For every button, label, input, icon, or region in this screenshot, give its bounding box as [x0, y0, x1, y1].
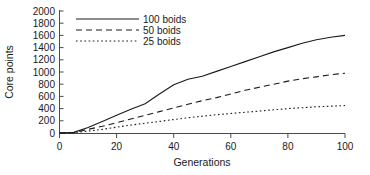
legend-label-25-boids: 25 boids — [143, 36, 181, 47]
x-tick-label: 20 — [111, 141, 123, 152]
x-tick-label: 80 — [282, 141, 294, 152]
legend-label-50-boids: 50 boids — [143, 25, 181, 36]
legend-label-100-boids: 100 boids — [143, 14, 186, 25]
y-tick-label: 1600 — [33, 30, 56, 41]
y-axis-title: Core points — [3, 45, 15, 99]
x-tick-label: 0 — [57, 141, 63, 152]
x-tick-label: 100 — [337, 141, 354, 152]
y-tick-label: 1800 — [33, 18, 56, 29]
x-tick-label: 40 — [168, 141, 180, 152]
chart-background — [0, 0, 370, 175]
y-tick-label: 1400 — [33, 42, 56, 53]
x-axis-title: Generations — [173, 156, 230, 168]
y-tick-label: 200 — [38, 115, 55, 126]
y-tick-label: 800 — [38, 79, 55, 90]
y-tick-label: 1200 — [33, 54, 56, 65]
y-tick-label: 2000 — [33, 6, 56, 17]
chart-figure: 2000 1800 1600 1400 1200 1000 800 600 40… — [0, 0, 370, 175]
line-chart: 2000 1800 1600 1400 1200 1000 800 600 40… — [0, 0, 370, 175]
y-tick-label: 600 — [38, 91, 55, 102]
y-tick-label: 400 — [38, 103, 55, 114]
y-tick-label: 1000 — [33, 67, 56, 78]
x-tick-label: 60 — [225, 141, 237, 152]
y-tick-label: 0 — [49, 128, 55, 139]
